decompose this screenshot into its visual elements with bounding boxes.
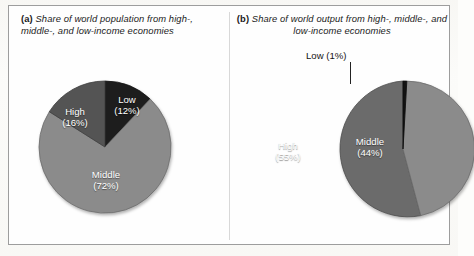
chart-b-title-text: Share of world output from high-, middle…	[249, 13, 447, 36]
chart-a-title-text: Share of world population from high-, mi…	[21, 13, 193, 36]
chart-b-label-high-value: (55%)	[264, 151, 312, 162]
chart-b-label-high-name: High	[264, 140, 312, 151]
chart-b-tag: (b)	[237, 13, 249, 24]
chart-a-pie-graphic	[37, 79, 173, 215]
chart-a-tag: (a)	[21, 13, 33, 24]
chart-a-title: (a) Share of world population from high-…	[21, 13, 221, 36]
chart-b-label-high: High (55%)	[264, 140, 312, 162]
chart-b-pie-graphic	[332, 78, 474, 220]
figure-panel: (a) Share of world population from high-…	[8, 5, 450, 245]
chart-b-title: (b) Share of world output from high-, mi…	[236, 13, 448, 36]
pie-chart-b: (b) Share of world output from high-, mi…	[230, 6, 451, 244]
chart-b-svg	[332, 78, 474, 220]
pie-chart-a: (a) Share of world population from high-…	[9, 6, 230, 244]
chart-b-label-low: Low (1%)	[306, 50, 347, 61]
chart-a-svg	[37, 79, 173, 215]
